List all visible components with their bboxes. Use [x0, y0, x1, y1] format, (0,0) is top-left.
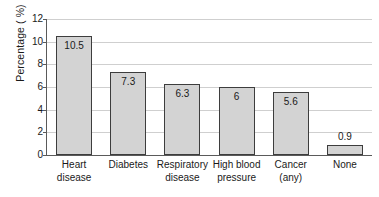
bar-value-label: 10.5	[56, 41, 92, 51]
x-axis-tick-label-line: disease	[155, 172, 209, 185]
bar[interactable]	[327, 145, 363, 155]
bar-group: 6	[219, 19, 255, 155]
gridline	[47, 42, 372, 43]
x-axis-tick-labels: Heart diseaseDiabetesRespiratorydiseaseH…	[47, 159, 372, 195]
bar-group: 0.9	[327, 19, 363, 155]
bar-group: 5.6	[273, 19, 309, 155]
y-axis-tick-mark	[43, 42, 47, 43]
bar-value-label: 7.3	[110, 77, 146, 87]
bar-value-label: 6.3	[164, 89, 200, 99]
gridline	[47, 19, 372, 20]
x-axis-tick-label-line: Respiratory	[155, 159, 209, 172]
bar-group: 10.5	[56, 19, 92, 155]
x-axis-tick-label-line: Heart disease	[47, 159, 101, 184]
y-axis-tick-label: 4	[25, 105, 43, 115]
gridline	[47, 132, 372, 133]
gridline	[47, 155, 372, 156]
y-axis-tick-mark	[43, 155, 47, 156]
x-axis-tick-label: Cancer (any)	[264, 159, 318, 184]
x-axis-tick-label-line: None	[318, 159, 372, 172]
y-axis-tick-mark	[43, 110, 47, 111]
bar-value-label: 6	[219, 92, 255, 102]
y-axis-tick-label: 2	[25, 127, 43, 137]
bar-group: 7.3	[110, 19, 146, 155]
bar[interactable]	[56, 36, 92, 155]
y-axis-tick-mark	[43, 87, 47, 88]
bar-value-label: 0.9	[327, 132, 363, 142]
y-axis-tick-mark	[43, 64, 47, 65]
x-axis-tick-label: None	[318, 159, 372, 172]
x-axis-tick-label-line: Diabetes	[101, 159, 155, 172]
y-axis-tick-label: 0	[25, 150, 43, 160]
x-axis-tick-label: Heart disease	[47, 159, 101, 184]
gridline	[47, 87, 372, 88]
y-axis-tick-label: 8	[25, 59, 43, 69]
y-axis-tick-labels: 024681012	[23, 19, 43, 155]
gridline	[47, 110, 372, 111]
x-axis-tick-label: Respiratorydisease	[155, 159, 209, 184]
y-axis-tick-mark	[43, 19, 47, 20]
y-axis-tick-label: 6	[25, 82, 43, 92]
y-axis-tick-label: 10	[25, 37, 43, 47]
y-axis-tick-mark	[43, 132, 47, 133]
gridline	[47, 64, 372, 65]
bar-value-label: 5.6	[273, 97, 309, 107]
y-axis-tick-label: 12	[25, 14, 43, 24]
plot-area: 10.57.36.365.60.9	[47, 19, 372, 155]
x-axis-tick-label: High bloodpressure	[210, 159, 264, 184]
bar-group: 6.3	[164, 19, 200, 155]
x-axis-tick-label-line: Cancer (any)	[264, 159, 318, 184]
x-axis-tick-label: Diabetes	[101, 159, 155, 172]
x-axis-tick-label-line: High blood	[210, 159, 264, 172]
bar-chart: Percentage ( %) 024681012 10.57.36.365.6…	[0, 0, 379, 197]
x-axis-tick-label-line: pressure	[210, 172, 264, 185]
